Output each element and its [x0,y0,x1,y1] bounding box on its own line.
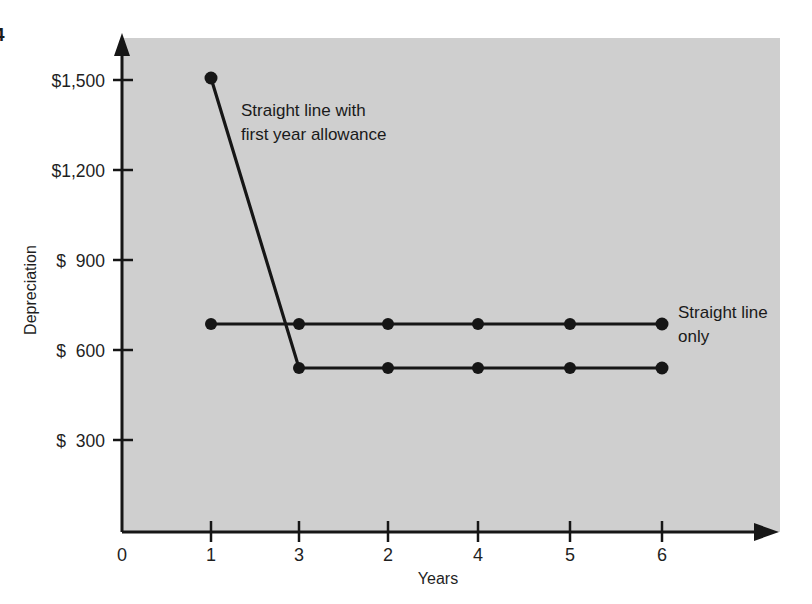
y-tick-label-900: $ 900 [56,251,105,271]
data-point [656,362,669,375]
depreciation-line-chart: $1,500 $1,200 $ 900 $ 600 $ 300 0 1 3 2 … [0,0,812,604]
y-tick-label-1200: $1,200 [51,161,105,181]
data-point [564,318,576,330]
y-axis-title: Depreciation [22,245,39,335]
data-point [472,318,484,330]
annotation-first-year-allowance-line2: first year allowance [241,125,387,144]
data-point [656,318,669,331]
y-tick-label-300: $ 300 [56,431,105,451]
y-tick-label-1500: $1,500 [51,71,105,91]
x-tick-label-1: 1 [206,545,216,565]
x-tick-label-3: 2 [383,545,393,565]
x-tick-label-5: 5 [565,545,575,565]
data-point [382,362,394,374]
annotation-first-year-allowance-line1: Straight line with [241,101,366,120]
figure-page: 4 $1,500 $1,200 $ 900 $ 600 $ 300 [0,0,812,604]
annotation-straight-line-only-line2: only [678,327,710,346]
data-point [382,318,394,330]
x-tick-label-4: 4 [473,545,483,565]
x-tick-label-6: 6 [657,545,667,565]
data-point [205,318,217,330]
data-point [564,362,576,374]
x-tick-label-2: 3 [294,545,304,565]
x-axis-title: Years [418,570,458,587]
data-point [293,362,305,374]
data-point [293,318,305,330]
data-point [472,362,484,374]
x-tick-label-0: 0 [117,545,127,565]
annotation-straight-line-only-line1: Straight line [678,303,768,322]
data-point [205,72,218,85]
y-tick-label-600: $ 600 [56,341,105,361]
